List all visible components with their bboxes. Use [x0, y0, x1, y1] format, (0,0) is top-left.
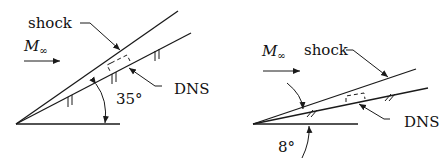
mach-label: M∞	[261, 42, 286, 61]
shock-line	[253, 69, 416, 124]
dns-domain-box	[346, 93, 365, 102]
angle-label: 8°	[278, 138, 295, 156]
dns-leader-arrow	[359, 104, 390, 119]
mach-label: M∞	[23, 37, 48, 56]
angle-label: 35°	[116, 90, 143, 108]
wedge-surface	[253, 88, 428, 124]
wedge-shock-diagram: M∞ shock DNS 35° M∞ shock DNS 8°	[0, 0, 446, 164]
angle-arrow-upper	[287, 83, 303, 109]
panel-right: M∞ shock DNS 8°	[253, 41, 439, 158]
shock-leader-arrow	[346, 50, 388, 77]
shock-leader-arrow	[80, 23, 120, 50]
shock-label: shock	[28, 14, 73, 32]
panel-left: M∞ shock DNS 35°	[16, 11, 209, 124]
angle-arc	[96, 84, 106, 123]
shock-label: shock	[304, 41, 349, 59]
angle-arrow-lower	[302, 126, 309, 158]
dns-label: DNS	[404, 113, 439, 131]
dns-label: DNS	[174, 80, 209, 98]
dns-leader-arrow	[129, 68, 162, 86]
